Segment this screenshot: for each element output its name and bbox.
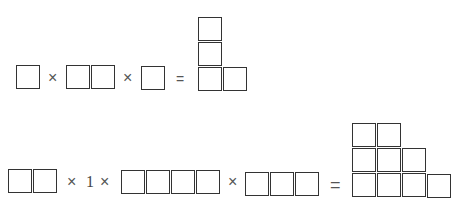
equals-sign: = <box>176 71 184 87</box>
grid-cell <box>16 65 40 89</box>
grid-cell <box>377 123 401 147</box>
grid-cell <box>352 123 376 147</box>
grid-cell <box>377 148 401 172</box>
grid-cell <box>402 173 426 197</box>
constant-one: 1 <box>86 174 94 190</box>
grid-cell <box>91 65 115 89</box>
equals-sign: = <box>330 177 341 193</box>
grid-cell <box>33 169 57 193</box>
times-sign: × <box>100 174 109 190</box>
grid-cell <box>146 170 170 194</box>
times-sign: × <box>228 174 237 190</box>
grid-cell <box>352 148 376 172</box>
grid-cell <box>377 173 401 197</box>
grid-cell <box>352 173 376 197</box>
grid-cell <box>427 174 451 198</box>
times-sign: × <box>123 70 132 86</box>
grid-cell <box>198 67 222 91</box>
grid-cell <box>196 170 220 194</box>
times-sign: × <box>67 174 76 190</box>
grid-cell <box>141 66 165 90</box>
grid-cell <box>402 148 426 172</box>
grid-cell <box>66 65 90 89</box>
grid-cell <box>223 67 247 91</box>
grid-cell <box>270 172 294 196</box>
grid-cell <box>121 170 145 194</box>
grid-cell <box>198 17 222 41</box>
grid-cell <box>198 42 222 66</box>
grid-cell <box>295 172 319 196</box>
grid-cell <box>171 170 195 194</box>
times-sign: × <box>48 70 57 86</box>
grid-cell <box>8 169 32 193</box>
grid-cell <box>245 172 269 196</box>
